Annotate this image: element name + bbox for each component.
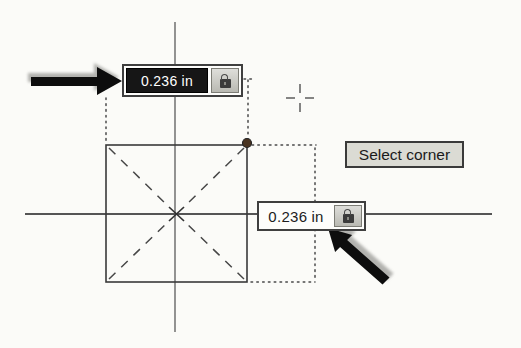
callout-arrow-top: [28, 63, 122, 95]
diagonal-topright: [184, 148, 244, 207]
dimension-input-top[interactable]: 0.236 in: [122, 64, 243, 97]
diagonal-bottomleft: [109, 221, 169, 279]
dimension-unit: in: [311, 208, 323, 225]
dimension-value: 0.236: [268, 208, 307, 225]
callout-arrow-bottom-body: [328, 228, 390, 285]
dimension-input-right[interactable]: 0.236 in: [257, 201, 366, 231]
lock-icon-glyph: [220, 79, 231, 88]
lock-icon-glyph: [343, 214, 354, 223]
dimension-value-field-top[interactable]: 0.236 in: [126, 68, 208, 93]
lock-icon[interactable]: [334, 205, 362, 227]
diagonal-topleft: [109, 148, 169, 207]
dimension-unit: in: [182, 73, 194, 89]
lock-icon[interactable]: [211, 68, 239, 93]
dimension-value: 0.236: [141, 73, 178, 89]
diagonal-bottomright: [184, 221, 244, 279]
crosshair-icon: [286, 84, 314, 112]
select-corner-tooltip: Select corner: [345, 141, 464, 168]
sketch-geometry: [0, 0, 521, 348]
dimension-value-field-right[interactable]: 0.236 in: [261, 205, 331, 227]
sketch-canvas: 0.236 in 0.236 in Select corner: [0, 0, 521, 348]
callout-arrow-bottom: [328, 224, 394, 285]
corner-point-handle[interactable]: [243, 139, 252, 148]
